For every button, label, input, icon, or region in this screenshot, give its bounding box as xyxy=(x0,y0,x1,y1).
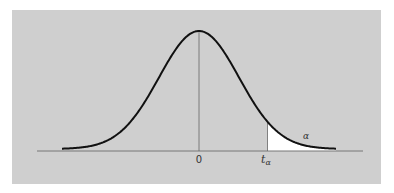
zero-label: 0 xyxy=(196,154,202,165)
alpha-label: α xyxy=(303,131,309,141)
t-alpha-subscript: α xyxy=(265,158,271,167)
t-distribution-figure: 0 tα α xyxy=(0,0,394,193)
